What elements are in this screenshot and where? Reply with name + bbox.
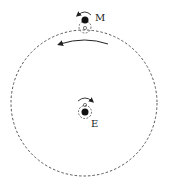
moon-label: M	[95, 13, 105, 23]
orbit-direction-arrow	[60, 40, 108, 44]
moon-rotation-arrow	[78, 12, 91, 15]
earth-rotation-arrow	[78, 98, 92, 101]
earth-body	[82, 109, 89, 116]
earth-barycenter-mark	[83, 103, 86, 106]
earth-moon-diagram	[0, 0, 169, 194]
moon-barycenter-mark	[83, 26, 86, 29]
earth-label: E	[91, 119, 98, 129]
moon-body	[82, 17, 89, 24]
moon-orbit	[11, 30, 157, 176]
